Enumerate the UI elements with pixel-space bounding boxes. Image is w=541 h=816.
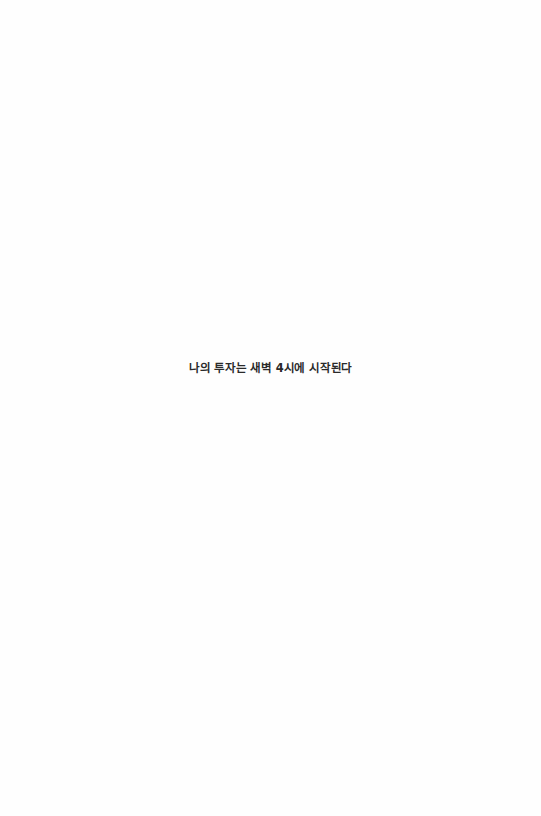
book-title-page: 나의 투자는 새벽 4시에 시작된다 <box>0 0 541 816</box>
book-title: 나의 투자는 새벽 4시에 시작된다 <box>0 360 541 376</box>
